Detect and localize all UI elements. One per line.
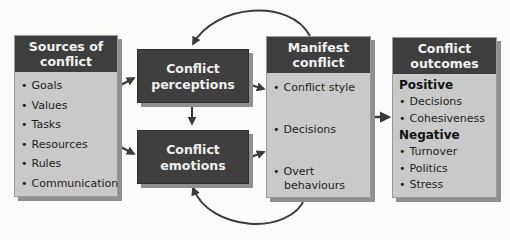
manifest-conflict-box: Manifest conflict Conflict style Decisio… [266,36,371,198]
list-item: Turnover [399,144,496,161]
list-item: Politics [399,161,496,178]
list-item: Communication [21,174,117,194]
negative-list: Turnover Politics Stress [393,144,496,194]
outcomes-title-line2: outcomes [395,56,494,71]
list-item: Values [21,96,117,116]
positive-label: Positive [393,77,496,94]
emotions-line2: emotions [138,157,248,173]
list-item: Resources [21,135,117,155]
sources-title-line1: Sources of [17,39,115,54]
conflict-perceptions-box: Conflict perceptions [137,49,249,103]
emotions-line1: Conflict [138,142,248,158]
perceptions-line2: perceptions [138,76,248,92]
arrow-sources-perceptions [119,78,134,86]
arrow-emotions-manifest [251,152,264,157]
positive-list: Decisions Cohesiveness [393,94,496,127]
sources-header: Sources of conflict [15,36,117,72]
manifest-header: Manifest conflict [267,37,370,73]
negative-label: Negative [393,127,496,144]
manifest-title-line2: conflict [269,55,368,70]
list-item: Cohesiveness [399,111,496,128]
list-item: Overt behaviours [273,165,364,193]
sources-list: Goals Values Tasks Resources Rules Commu… [15,72,117,193]
conflict-outcomes-box: Conflict outcomes Positive Decisions Coh… [392,37,497,198]
sources-title-line2: conflict [17,54,115,69]
list-item: Decisions [273,123,370,137]
perceptions-line1: Conflict [138,61,248,77]
conflict-emotions-box: Conflict emotions [137,130,249,184]
manifest-list: Conflict style Decisions Overt behaviour… [267,73,370,193]
list-item: Conflict style [273,81,370,95]
outcomes-header: Conflict outcomes [393,38,496,74]
list-item: Tasks [21,115,117,135]
list-item: Goals [21,76,117,96]
list-item: Decisions [399,94,496,111]
arrow-perceptions-manifest [251,85,264,89]
list-item: Stress [399,177,496,194]
perceptions-label: Conflict perceptions [138,61,248,92]
outcomes-title-line1: Conflict [395,41,494,56]
sources-of-conflict-box: Sources of conflict Goals Values Tasks R… [14,35,118,197]
list-item: Rules [21,154,117,174]
manifest-title-line1: Manifest [269,40,368,55]
arrow-sources-emotions [119,146,134,154]
emotions-label: Conflict emotions [138,142,248,173]
